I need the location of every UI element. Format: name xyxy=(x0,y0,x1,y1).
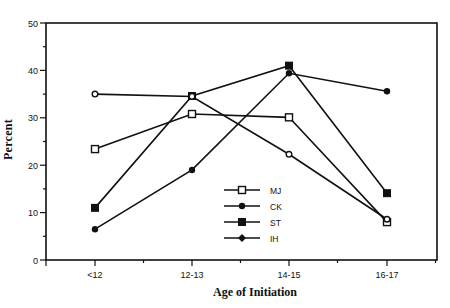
filled-square-marker xyxy=(383,189,391,197)
y-tick-label: 20 xyxy=(28,161,38,171)
legend-marker-icon xyxy=(238,234,246,242)
filled-dot-marker xyxy=(92,226,98,232)
y-tick-label: 0 xyxy=(33,256,38,266)
line-chart: 01020304050<1212-1314-1516-17 MJCKSTIH xyxy=(0,0,450,308)
x-tick-label: 12-13 xyxy=(180,270,203,280)
filled-dot-marker xyxy=(189,167,195,173)
legend-item-mj: MJ xyxy=(224,186,281,196)
legend-label: IH xyxy=(270,234,279,244)
y-tick-label: 10 xyxy=(28,208,38,218)
legend-marker-icon xyxy=(238,218,246,226)
y-tick-label: 40 xyxy=(28,66,38,76)
open-circle-marker xyxy=(92,91,98,97)
x-tick-label: 14-15 xyxy=(277,270,300,280)
legend-item-st: ST xyxy=(224,218,281,228)
filled-dot-marker xyxy=(286,70,292,76)
open-square-marker xyxy=(286,114,293,121)
legend-label: CK xyxy=(270,202,282,212)
legend-label: ST xyxy=(270,218,281,228)
open-circle-marker xyxy=(189,94,195,100)
open-circle-marker xyxy=(384,216,390,222)
chart-legend: MJCKSTIH xyxy=(224,186,282,244)
y-axis-label: Percent xyxy=(1,119,16,160)
x-tick-label: 16-17 xyxy=(375,270,398,280)
legend-item-ck: CK xyxy=(224,202,282,212)
filled-square-marker xyxy=(285,62,293,70)
legend-marker-icon xyxy=(239,203,245,209)
chart-axes: 01020304050<1212-1314-1516-17 xyxy=(28,19,437,281)
open-square-marker xyxy=(92,146,99,153)
legend-label: MJ xyxy=(270,186,281,196)
filled-dot-marker xyxy=(384,88,390,94)
x-axis-label: Age of Initiation xyxy=(0,285,450,300)
x-tick-label: <12 xyxy=(87,270,102,280)
open-square-marker xyxy=(189,111,196,118)
series-ih xyxy=(92,91,390,222)
filled-square-marker xyxy=(91,204,99,212)
open-circle-marker xyxy=(286,151,292,157)
legend-item-ih: IH xyxy=(224,234,279,244)
y-tick-label: 50 xyxy=(28,19,38,29)
legend-marker-icon xyxy=(239,187,246,194)
y-tick-label: 30 xyxy=(28,113,38,123)
